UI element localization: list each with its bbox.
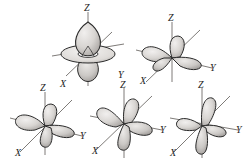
axis-label-x: X <box>59 78 67 89</box>
axis-label-z: Z <box>120 79 126 90</box>
axis-label-z: Z <box>198 79 204 90</box>
axis-label-x: X <box>169 147 177 158</box>
axis-label-x: X <box>91 145 99 156</box>
axis-label-x: X <box>14 147 22 158</box>
axis-label-z: Z <box>168 12 174 23</box>
d-orbital-diagram: Z X Y Z X Y <box>0 0 248 167</box>
axis-label-z: Z <box>40 82 46 93</box>
axis-label-x: X <box>139 75 147 86</box>
axis-label-z: Z <box>84 2 90 13</box>
